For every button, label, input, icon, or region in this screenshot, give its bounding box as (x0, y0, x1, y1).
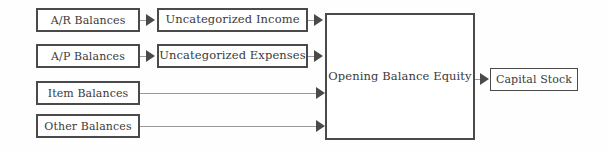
edge-uncategorized-expenses-to-hub (308, 50, 325, 62)
node-other-balances[interactable]: Other Balances (36, 114, 140, 138)
flow-diagram: A/R Balances A/P Balances Item Balances … (0, 0, 607, 150)
node-uncategorized-income[interactable]: Uncategorized Income (157, 8, 308, 32)
edge-ar-to-uncategorized-income (140, 14, 157, 26)
arrow-head-icon (316, 120, 325, 132)
node-item-balances[interactable]: Item Balances (36, 81, 140, 105)
arrow-head-icon (316, 87, 325, 99)
edge-line (140, 20, 146, 21)
arrow-head-icon (314, 14, 323, 26)
node-label: Uncategorized Expenses (159, 50, 305, 62)
edge-line (475, 79, 480, 80)
edge-other-balances-to-hub (140, 120, 325, 132)
edge-ap-to-uncategorized-expenses (140, 50, 157, 62)
node-ap-balances[interactable]: A/P Balances (36, 44, 140, 68)
arrow-head-icon (480, 73, 489, 85)
node-label: Uncategorized Income (165, 14, 299, 26)
node-label: Other Balances (44, 121, 131, 132)
node-capital-stock[interactable]: Capital Stock (490, 68, 578, 91)
edge-item-balances-to-hub (140, 87, 325, 99)
edge-line (140, 126, 317, 127)
arrow-head-icon (146, 14, 155, 26)
edge-line (308, 20, 314, 21)
node-uncategorized-expenses[interactable]: Uncategorized Expenses (157, 44, 308, 68)
arrow-head-icon (146, 50, 155, 62)
node-label: Capital Stock (496, 74, 572, 85)
edge-line (308, 56, 314, 57)
arrow-head-icon (314, 50, 323, 62)
edge-uncategorized-income-to-hub (308, 14, 325, 26)
node-label: A/R Balances (51, 15, 126, 26)
node-opening-balance-equity[interactable]: Opening Balance Equity (325, 13, 475, 140)
edge-line (140, 56, 146, 57)
node-label: Item Balances (48, 88, 129, 99)
edge-hub-to-capital-stock (475, 73, 490, 85)
node-label: Opening Balance Equity (328, 71, 471, 83)
edge-line (140, 93, 317, 94)
node-label: A/P Balances (51, 51, 125, 62)
node-ar-balances[interactable]: A/R Balances (36, 8, 140, 32)
